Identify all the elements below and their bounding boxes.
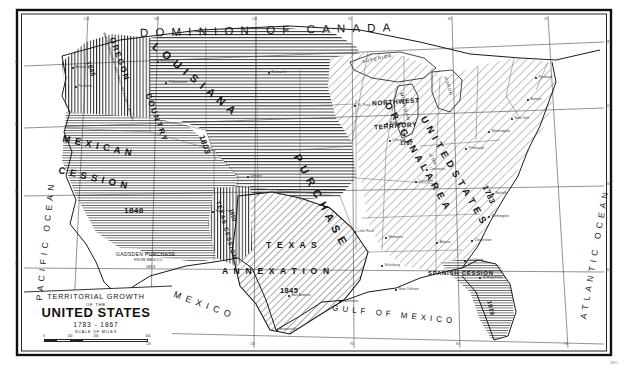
city-dot-denver — [247, 176, 249, 178]
city-dot-wilmington — [488, 216, 490, 218]
scale-tick-100: 100 — [67, 334, 72, 338]
city-dot-portland-or — [75, 86, 77, 88]
city-dot-pittsburgh — [465, 148, 467, 150]
city-dot-san-antonio — [288, 295, 290, 297]
scale-bar: 0100200400 — [44, 335, 148, 345]
city-dot-brownsville — [276, 329, 278, 331]
city-dot-vicksburg — [381, 265, 383, 267]
city-dot-santa-fe — [212, 211, 214, 213]
city-dot-atlanta — [436, 242, 438, 244]
city-dot-missoula — [157, 61, 159, 63]
title-date-range: 1783 - 1867 — [26, 321, 166, 328]
city-dot-milwaukee — [386, 123, 388, 125]
scale-bar-segment — [44, 339, 57, 342]
title-line-1: TERRITORIAL GROWTH — [26, 292, 166, 301]
city-dot-portland-me — [535, 77, 537, 79]
city-dot-astoria — [72, 67, 74, 69]
city-dot-norfolk — [492, 193, 494, 195]
city-dot-savannah — [464, 260, 466, 262]
city-dot-charleston — [471, 240, 473, 242]
city-dot-bismarck — [268, 72, 270, 74]
city-dot-little-rock — [354, 231, 356, 233]
territorial-growth-map: DOMINION OF CANADA MEXICO PACIFIC OCEAN … — [0, 0, 628, 379]
title-line-3: UNITED STATES — [26, 306, 166, 320]
scale-bar-segment — [70, 339, 83, 342]
scale-tick-0: 0 — [43, 334, 45, 338]
city-dot-louisville — [415, 181, 417, 183]
scale-bar-outline — [44, 339, 148, 342]
publisher-imprint: S.P.C. — [610, 362, 618, 365]
city-dot-st-paul — [354, 105, 356, 107]
city-dot-yellowstone — [165, 82, 167, 84]
scale-tick-200: 200 — [93, 334, 98, 338]
city-dot-cincinnati — [426, 169, 428, 171]
city-dot-new-york — [511, 118, 513, 120]
scale-tick-400: 400 — [145, 334, 150, 338]
city-dot-new-orleans — [395, 289, 397, 291]
city-dot-galveston — [339, 301, 341, 303]
city-dot-chicago — [389, 140, 391, 142]
city-dot-washington — [488, 131, 490, 133]
map-title-block: TERRITORIAL GROWTH OF THE UNITED STATES … — [26, 292, 166, 345]
city-dot-memphis — [385, 237, 387, 239]
city-dot-st-augustine — [479, 277, 481, 279]
city-dot-boston — [527, 99, 529, 101]
